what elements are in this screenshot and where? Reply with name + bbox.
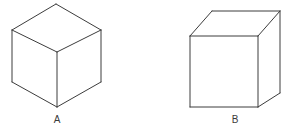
cube-b-group — [190, 11, 280, 107]
cube-a-label: A — [45, 114, 69, 126]
cube-comparison-figure: A B — [0, 0, 291, 133]
cube-a-group — [12, 4, 101, 107]
cube-diagram-canvas — [0, 0, 291, 133]
cube-b-label: B — [223, 114, 247, 126]
cube-b-front-face — [190, 36, 258, 107]
